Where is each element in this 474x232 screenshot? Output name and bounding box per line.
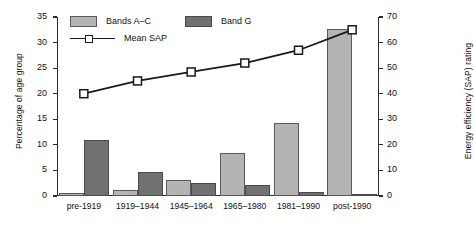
- x-axis-category-label: 1965–1980: [218, 201, 272, 211]
- mean-sap-marker: [80, 90, 88, 98]
- mean-sap-marker: [295, 46, 303, 54]
- y-axis-right-title: Energy efficiency (SAP) rating: [463, 16, 473, 186]
- y-axis-left-tick-label: 5: [7, 165, 47, 174]
- y-axis-right-tick: [379, 42, 383, 43]
- y-axis-right-tick: [379, 170, 383, 171]
- y-axis-right-tick: [379, 144, 383, 145]
- x-axis-category-label: 1981–1990: [272, 201, 326, 211]
- y-axis-right-tick-label: 10: [387, 165, 427, 174]
- y-axis-right-tick-label: 0: [387, 191, 427, 200]
- y-axis-right-tick-label: 50: [387, 63, 427, 72]
- plot-area: 05101520253035 010203040506070 pre-19191…: [57, 17, 379, 196]
- y-axis-left-tick-label: 25: [7, 63, 47, 72]
- y-axis-left-tick-label: 30: [7, 38, 47, 47]
- y-axis-right-tick: [379, 195, 383, 196]
- y-axis-right-tick: [379, 119, 383, 120]
- x-axis-category-label: pre-1919: [57, 201, 111, 211]
- y-axis-right-tick: [379, 16, 383, 17]
- y-axis-right-tick-label: 30: [387, 114, 427, 123]
- x-axis-category-label: post-1990: [325, 201, 379, 211]
- x-axis-category-label: 1945–1964: [164, 201, 218, 211]
- x-axis-category-label: 1919–1944: [111, 201, 165, 211]
- y-axis-right-tick-label: 40: [387, 89, 427, 98]
- y-axis-left-tick-label: 10: [7, 140, 47, 149]
- y-axis-left-tick-label: 15: [7, 114, 47, 123]
- y-axis-left-tick-label: 20: [7, 89, 47, 98]
- chart-container: Percentage of age group Energy efficienc…: [0, 0, 474, 232]
- mean-sap-marker: [134, 77, 142, 85]
- mean-sap-marker: [187, 68, 195, 76]
- y-axis-right-tick-label: 20: [387, 140, 427, 149]
- y-axis-left-title: Percentage of age group: [14, 26, 24, 176]
- mean-sap-line-series: [57, 17, 379, 196]
- y-axis-right-tick-label: 60: [387, 38, 427, 47]
- y-axis-right-tick: [379, 93, 383, 94]
- y-axis-left-tick-label: 0: [7, 191, 47, 200]
- y-axis-right-tick-label: 70: [387, 12, 427, 21]
- mean-sap-marker: [348, 26, 356, 34]
- mean-sap-polyline: [84, 30, 352, 94]
- y-axis-left-tick-label: 35: [7, 12, 47, 21]
- mean-sap-marker: [241, 59, 249, 67]
- y-axis-right-tick: [379, 68, 383, 69]
